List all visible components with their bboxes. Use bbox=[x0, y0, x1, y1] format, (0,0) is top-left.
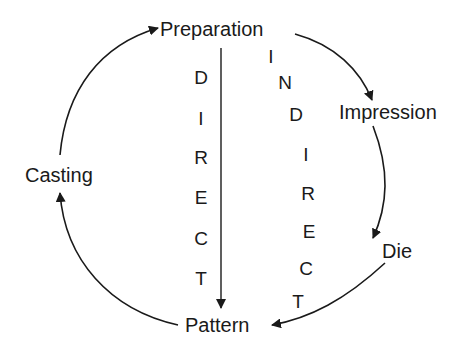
direct-letter: E bbox=[195, 188, 208, 207]
node-impression: Impression bbox=[339, 102, 437, 122]
indirect-letter: C bbox=[299, 259, 313, 278]
indirect-letter: N bbox=[278, 73, 292, 92]
indirect-letter: D bbox=[289, 105, 303, 124]
diagram-canvas: Preparation Impression Die Pattern Casti… bbox=[0, 0, 473, 348]
arrow-die-to-pattern bbox=[272, 263, 385, 325]
node-preparation: Preparation bbox=[160, 19, 263, 39]
indirect-letter: E bbox=[303, 222, 316, 241]
direct-letter: D bbox=[194, 68, 208, 87]
node-pattern: Pattern bbox=[185, 315, 249, 335]
direct-letter: T bbox=[195, 269, 207, 288]
arrow-impression-to-die bbox=[373, 126, 385, 238]
indirect-letter: I bbox=[268, 47, 273, 66]
indirect-letter: R bbox=[301, 184, 315, 203]
arrow-pattern-to-casting bbox=[60, 193, 178, 325]
arrow-preparation-to-impression bbox=[295, 34, 372, 100]
node-casting: Casting bbox=[25, 165, 93, 185]
direct-letter: C bbox=[194, 229, 208, 248]
direct-letter: R bbox=[194, 148, 208, 167]
arrow-casting-to-preparation bbox=[60, 28, 158, 155]
indirect-letter: I bbox=[303, 145, 308, 164]
node-die: Die bbox=[382, 241, 412, 261]
indirect-letter: T bbox=[292, 292, 304, 311]
direct-letter: I bbox=[198, 109, 203, 128]
